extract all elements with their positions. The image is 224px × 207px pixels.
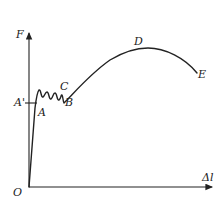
force-elongation-diagram: F Δl O A' A B C D E [0, 0, 224, 207]
point-e-label: E [197, 68, 206, 81]
point-b-label: B [64, 96, 73, 109]
point-a-label: A [37, 106, 46, 119]
origin-label: O [13, 186, 22, 199]
load-curve [29, 48, 197, 187]
point-d-label: D [133, 35, 143, 48]
point-c-label: C [60, 80, 69, 93]
point-a-prime-label: A' [13, 96, 25, 109]
x-axis-label: Δl [201, 171, 214, 184]
y-axis-label: F [15, 28, 24, 41]
